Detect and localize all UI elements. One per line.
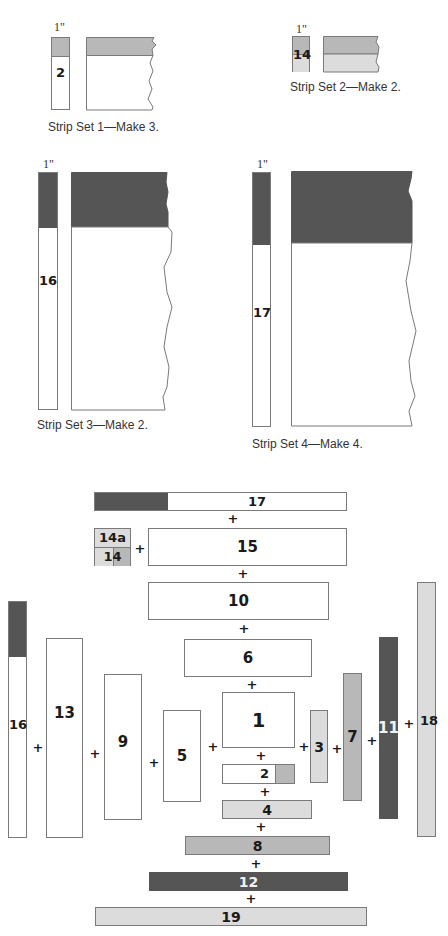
piece-13: 13 xyxy=(46,638,83,838)
plus-sign: + xyxy=(403,716,415,731)
piece-17: 17 xyxy=(94,492,347,511)
piece-10: 10 xyxy=(148,582,329,620)
piece-label: 18 xyxy=(420,713,438,728)
piece-2: 2 xyxy=(222,764,295,784)
plus-sign: + xyxy=(238,621,250,636)
piece-5: 5 xyxy=(163,710,201,802)
plus-sign: + xyxy=(207,739,219,754)
piece-label: 16 xyxy=(9,657,26,732)
piece-16: 16 xyxy=(8,601,27,838)
piece-label: 16 xyxy=(39,228,57,288)
strip-set-2-segment: 14 xyxy=(292,36,310,72)
width-label: 1" xyxy=(43,157,54,172)
piece-18: 18 xyxy=(417,582,436,837)
piece-label: 2 xyxy=(223,765,276,783)
plus-sign: + xyxy=(237,566,249,581)
piece-8: 8 xyxy=(185,836,330,855)
piece-label: 17 xyxy=(253,245,270,320)
plus-sign: + xyxy=(148,755,160,770)
strip-set-4-panel xyxy=(291,171,421,429)
strip-set-2-panel xyxy=(323,36,381,74)
plus-sign: + xyxy=(331,741,343,756)
plus-sign: + xyxy=(255,819,267,834)
width-label: 1" xyxy=(296,22,307,37)
piece-14a-label: 14a xyxy=(95,529,130,548)
plus-sign: + xyxy=(298,739,310,754)
strip-set-3-caption: Strip Set 3—Make 2. xyxy=(37,418,148,432)
piece-label: 17 xyxy=(168,493,346,510)
piece-11: 11 xyxy=(379,637,398,819)
strip-set-3-panel xyxy=(71,172,175,412)
plus-sign: + xyxy=(259,784,271,799)
plus-sign: + xyxy=(89,746,101,761)
plus-sign: + xyxy=(366,733,378,748)
plus-sign: + xyxy=(255,748,267,763)
piece-label: 2 xyxy=(52,57,69,80)
piece-3: 3 xyxy=(310,710,328,783)
plus-sign: + xyxy=(250,856,262,871)
piece-19: 19 xyxy=(95,907,367,926)
piece-15: 15 xyxy=(148,528,347,566)
plus-sign: + xyxy=(227,511,239,526)
plus-sign: + xyxy=(246,677,258,692)
piece-1: 1 xyxy=(222,692,295,748)
plus-sign: + xyxy=(134,541,146,556)
piece-6: 6 xyxy=(184,639,312,677)
piece-9: 9 xyxy=(104,674,142,820)
strip-set-1-segment: 2 xyxy=(51,37,70,110)
strip-set-1-panel xyxy=(86,37,158,111)
strip-set-2-caption: Strip Set 2—Make 2. xyxy=(290,80,401,94)
piece-14-label: 14 xyxy=(95,548,130,566)
plus-sign: + xyxy=(32,740,44,755)
width-label: 1" xyxy=(54,20,65,35)
strip-set-4-caption: Strip Set 4—Make 4. xyxy=(252,437,363,451)
strip-set-4-segment: 17 xyxy=(252,172,271,427)
strip-set-3-segment: 16 xyxy=(38,172,58,410)
plus-sign: + xyxy=(245,891,257,906)
piece-4: 4 xyxy=(222,800,312,819)
piece-7: 7 xyxy=(343,673,362,801)
piece-label: 14 xyxy=(291,47,313,62)
width-label: 1" xyxy=(257,157,268,172)
piece-12: 12 xyxy=(149,872,348,891)
strip-set-1-caption: Strip Set 1—Make 3. xyxy=(48,120,159,134)
piece-14-14a: 14a 14 xyxy=(94,528,131,566)
